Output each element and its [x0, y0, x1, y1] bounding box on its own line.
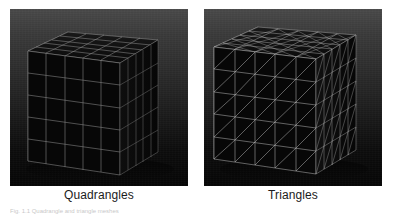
cube-front-face	[214, 47, 316, 174]
caption-quadrangles: Quadrangles	[10, 188, 188, 202]
image-panel-triangles	[204, 9, 382, 186]
figure-quadrangles-vs-triangles: Quadrangles Triangles Fig. 1.1 Quadrangl…	[0, 0, 393, 215]
cube-front-face	[28, 51, 120, 175]
cube-right-face	[316, 35, 356, 174]
figure-caption: Fig. 1.1 Quadrangle and triangle meshes	[10, 207, 310, 215]
caption-triangles: Triangles	[204, 188, 382, 202]
image-panel-quadrangles	[10, 9, 188, 186]
triangle-mesh-cube-render	[204, 9, 382, 186]
figure-panels	[0, 9, 393, 186]
panel-captions: Quadrangles Triangles	[0, 188, 393, 204]
quad-mesh-cube-render	[10, 9, 188, 186]
cube-right-face	[120, 40, 158, 175]
